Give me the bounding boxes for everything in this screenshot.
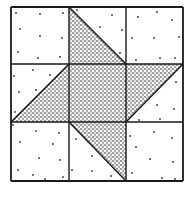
fabric-dot	[178, 36, 180, 38]
fabric-dot	[159, 118, 161, 120]
fabric-dot	[32, 69, 34, 71]
fabric-dot	[149, 158, 151, 160]
fabric-dot	[19, 28, 21, 30]
fabric-dot	[131, 172, 133, 174]
fabric-dot	[44, 178, 46, 180]
fabric-dot	[121, 29, 123, 31]
fabric-dot	[138, 119, 140, 121]
fabric-dot	[39, 13, 41, 15]
fabric-dot	[59, 56, 61, 58]
fabric-dot	[17, 51, 19, 53]
fabric-dot	[12, 124, 14, 126]
fabric-dot	[99, 26, 101, 28]
fabric-dot	[52, 143, 54, 145]
fabric-dot	[62, 12, 64, 14]
fabric-dot	[137, 16, 139, 18]
fabric-dot	[32, 174, 34, 176]
fabric-dot	[175, 81, 177, 83]
shaded-regions	[11, 7, 183, 181]
fabric-dot	[172, 161, 174, 163]
fabric-dot	[91, 170, 93, 172]
fabric-dot	[91, 155, 93, 157]
fabric-dot	[110, 175, 112, 177]
fabric-dot	[39, 35, 41, 37]
fabric-dot	[75, 138, 77, 140]
fabric-dot	[135, 59, 137, 61]
fabric-dot	[153, 131, 155, 133]
fabric-dot	[171, 137, 173, 139]
fabric-dot	[76, 9, 78, 11]
fabric-dot	[174, 178, 176, 180]
fabric-dot	[135, 146, 137, 148]
fabric-dot	[161, 177, 163, 179]
fabric-dot	[111, 14, 113, 16]
fabric-dot	[49, 74, 51, 76]
fabric-dot	[58, 132, 60, 134]
fabric-dot	[159, 57, 161, 59]
fabric-dot	[173, 108, 175, 110]
fabric-dot	[13, 75, 15, 77]
fabric-dot	[15, 12, 17, 14]
fabric-dot	[156, 104, 158, 106]
fabric-dot	[119, 52, 121, 54]
fabric-dot	[35, 130, 37, 132]
fabric-dot	[174, 57, 176, 59]
fabric-dot	[59, 159, 61, 161]
fabric-dot	[62, 176, 64, 178]
fabric-dot	[129, 135, 131, 137]
fabric-dot	[37, 57, 39, 59]
fabric-dot	[19, 141, 21, 143]
fabric-dot	[35, 89, 37, 91]
quilt-block-svg	[0, 0, 193, 197]
fabric-dot	[153, 37, 155, 39]
fabric-dot	[38, 157, 40, 159]
fabric-dot	[14, 111, 16, 113]
fabric-dot	[61, 37, 63, 39]
center-square	[69, 64, 126, 122]
fabric-dot	[18, 91, 20, 93]
fabric-dot	[156, 11, 158, 13]
fabric-dot	[171, 19, 173, 21]
quilt-block-diagram	[0, 0, 193, 197]
fabric-dot	[17, 169, 19, 171]
fabric-dot	[71, 169, 73, 171]
fabric-dot	[131, 37, 133, 39]
